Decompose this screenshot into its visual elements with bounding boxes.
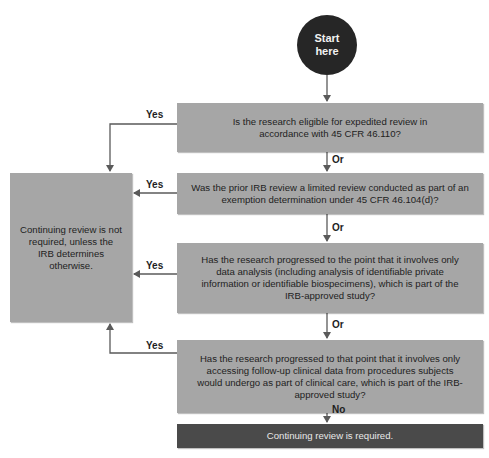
yes-label-q3: Yes	[146, 260, 163, 271]
question-4-text: Has the research progressed to that poin…	[193, 353, 467, 401]
question-3-text: Has the research progressed to the point…	[195, 254, 465, 302]
question-2-text: Was the prior IRB review a limited revie…	[187, 182, 473, 206]
required-outcome-text: Continuing review is required.	[267, 430, 393, 442]
question-4-box: Has the research progressed to that poin…	[177, 340, 483, 413]
yes-label-q4: Yes	[146, 340, 163, 351]
continuing-review-required-box: Continuing review is required.	[177, 424, 483, 448]
yes-label-q1: Yes	[146, 109, 163, 120]
question-1-text: Is the research eligible for expedited r…	[232, 116, 428, 140]
not-required-outcome-text: Continuing review is not required, unles…	[20, 224, 122, 272]
question-3-box: Has the research progressed to the point…	[177, 243, 483, 313]
start-label-line2: here	[314, 45, 339, 58]
continuing-review-not-required-box: Continuing review is not required, unles…	[10, 173, 132, 322]
start-label-line1: Start	[314, 32, 339, 45]
question-1-box: Is the research eligible for expedited r…	[177, 103, 483, 152]
start-node: Start here	[297, 15, 357, 75]
no-label: No	[332, 404, 345, 415]
yes-label-q2: Yes	[146, 179, 163, 190]
or-label-2: Or	[332, 222, 344, 233]
question-2-box: Was the prior IRB review a limited revie…	[177, 173, 483, 214]
or-label-1: Or	[332, 154, 344, 165]
or-label-3: Or	[332, 319, 344, 330]
